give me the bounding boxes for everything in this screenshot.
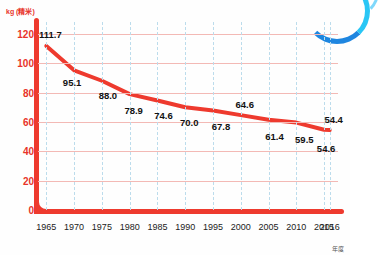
gridline-horizontal bbox=[38, 181, 338, 182]
gridline-horizontal bbox=[38, 151, 338, 152]
data-point-label: 88.0 bbox=[99, 90, 118, 101]
y-axis-tick-label: 120 bbox=[17, 28, 34, 39]
gridline-vertical bbox=[102, 22, 103, 210]
gridline-vertical bbox=[241, 22, 242, 210]
x-axis-tick-label: 2005 bbox=[259, 222, 279, 232]
gridline-horizontal bbox=[38, 34, 338, 35]
gridline-horizontal bbox=[38, 63, 338, 64]
x-axis-tick-label: 1995 bbox=[203, 222, 223, 232]
gridline-vertical bbox=[213, 22, 214, 210]
blue-arc-inner-decoration bbox=[329, 0, 379, 17]
x-axis-tick-label: 1975 bbox=[92, 222, 112, 232]
data-point-label: 74.6 bbox=[154, 110, 173, 121]
y-axis-tick-label: 20 bbox=[23, 175, 34, 186]
x-axis-tick-label: 1965 bbox=[36, 222, 56, 232]
data-point-label: 54.4 bbox=[324, 114, 343, 125]
series-line-rice-consumption bbox=[38, 22, 338, 210]
y-axis-tick-label: 60 bbox=[23, 116, 34, 127]
y-axis-tick-label: 100 bbox=[17, 58, 34, 69]
data-point-label: 59.5 bbox=[295, 134, 314, 145]
data-point-label: 54.6 bbox=[317, 143, 336, 154]
data-point-label: 64.6 bbox=[236, 99, 255, 110]
x-axis-tick-label: 1980 bbox=[120, 222, 140, 232]
gridline-vertical bbox=[269, 22, 270, 210]
data-point-label: 61.4 bbox=[265, 131, 284, 142]
x-axis-tick-label: 2016 bbox=[320, 222, 340, 232]
gridline-horizontal bbox=[38, 93, 338, 94]
x-axis-tick-label: 1970 bbox=[64, 222, 84, 232]
y-axis-tick-label: 0 bbox=[28, 205, 34, 216]
x-axis-tick-label: 2000 bbox=[231, 222, 251, 232]
x-axis-tick-label: 1985 bbox=[147, 222, 167, 232]
data-point-label: 111.7 bbox=[39, 29, 62, 40]
x-axis-tick-label: 1990 bbox=[175, 222, 195, 232]
data-point-label: 78.9 bbox=[124, 105, 143, 116]
x-axis-unit-label: 年度 bbox=[332, 244, 344, 253]
y-axis-unit-label: kg (精米) bbox=[6, 6, 35, 16]
y-axis-tick-label: 40 bbox=[23, 146, 34, 157]
data-point-label: 67.8 bbox=[212, 121, 231, 132]
gridline-vertical bbox=[185, 22, 186, 210]
plot-area: 0204060801001201965197019751980198519901… bbox=[38, 22, 338, 210]
gridline-vertical bbox=[296, 22, 297, 210]
data-point-label: 95.1 bbox=[63, 77, 82, 88]
data-point-label: 70.0 bbox=[180, 117, 199, 128]
y-axis-tick-label: 80 bbox=[23, 87, 34, 98]
gridline-vertical bbox=[74, 22, 75, 210]
gridline-vertical bbox=[46, 22, 47, 210]
x-axis-tick-label: 2010 bbox=[286, 222, 306, 232]
